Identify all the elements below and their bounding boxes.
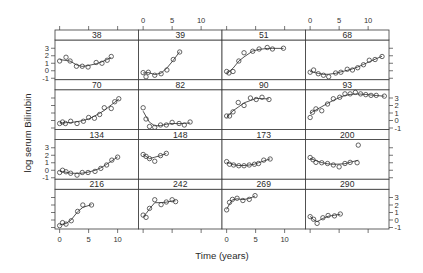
- y-tick-label-right: 3: [395, 193, 399, 202]
- panel-200: 200: [306, 130, 390, 180]
- panel-269: 269: [222, 179, 306, 229]
- x-axis-label: Time (years): [195, 250, 248, 261]
- y-axis-label: log serum Bilirubin: [22, 94, 33, 173]
- x-tick-label-bottom: 5: [87, 235, 91, 244]
- panel-290: 290: [306, 179, 390, 229]
- y-tick-label-right: 3: [395, 94, 399, 103]
- panel-label: 269: [257, 179, 272, 189]
- panel-39: 39: [139, 30, 223, 80]
- panel-134: 134: [55, 130, 139, 180]
- panel-area: [306, 140, 390, 180]
- panel-area: [306, 40, 390, 80]
- x-tick-label-top: 10: [364, 16, 372, 25]
- x-tick-label-bottom: 5: [254, 235, 258, 244]
- panel-label: 134: [90, 130, 105, 140]
- panel-label: 173: [257, 130, 272, 140]
- panel-area: [139, 189, 223, 229]
- x-tick-label-top: 10: [197, 16, 205, 25]
- panel-area: [306, 189, 390, 229]
- panel-label: 82: [175, 80, 185, 90]
- panel-148: 148: [139, 130, 223, 180]
- x-tick-label-top: 5: [170, 16, 174, 25]
- x-tick-label-bottom: 0: [58, 235, 62, 244]
- panel-label: 68: [342, 30, 352, 40]
- panel-90: 90: [222, 80, 306, 130]
- panel-area: [55, 40, 139, 80]
- panel-label: 51: [259, 30, 269, 40]
- panel-68: 68: [306, 30, 390, 80]
- trellis-figure: 3839516870829093134148173200216242269290…: [0, 0, 423, 273]
- x-tick-label-top: 0: [308, 16, 312, 25]
- panel-label: 200: [340, 130, 355, 140]
- panel-label: 93: [342, 80, 352, 90]
- panel-93: 93: [306, 80, 390, 130]
- panel-grid: 3839516870829093134148173200216242269290: [55, 30, 389, 229]
- y-tick-label-left: 3: [45, 143, 49, 152]
- x-tick-label-top: 0: [141, 16, 145, 25]
- panel-area: [222, 189, 306, 229]
- panel-area: [222, 40, 306, 80]
- panel-242: 242: [139, 179, 223, 229]
- x-tick-label-bottom: 10: [113, 235, 121, 244]
- trellis-plot: 3839516870829093134148173200216242269290…: [0, 0, 423, 273]
- x-tick-label-bottom: 10: [280, 235, 288, 244]
- panel-label: 290: [340, 179, 355, 189]
- panel-label: 39: [175, 30, 185, 40]
- panel-173: 173: [222, 130, 306, 180]
- panel-216: 216: [55, 179, 139, 229]
- panel-38: 38: [55, 30, 139, 80]
- panel-label: 38: [92, 30, 102, 40]
- panel-label: 242: [173, 179, 188, 189]
- panel-label: 148: [173, 130, 188, 140]
- y-tick-label-left: 3: [45, 44, 49, 53]
- panel-label: 70: [92, 80, 102, 90]
- panel-70: 70: [55, 80, 139, 130]
- panel-label: 216: [90, 179, 105, 189]
- x-tick-label-bottom: 0: [225, 235, 229, 244]
- panel-82: 82: [139, 80, 223, 130]
- panel-area: [222, 140, 306, 180]
- panel-area: [139, 140, 223, 180]
- panel-51: 51: [222, 30, 306, 80]
- x-tick-label-top: 5: [337, 16, 341, 25]
- panel-label: 90: [259, 80, 269, 90]
